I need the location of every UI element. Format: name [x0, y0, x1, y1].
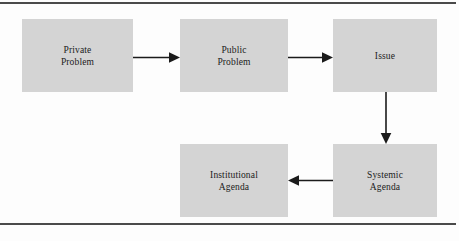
horizontal-rule-bottom: [0, 223, 456, 225]
node-label-public-problem: Public Problem: [217, 44, 250, 68]
diagram-canvas: Private Problem Public Problem Issue Ins…: [0, 0, 459, 241]
node-institutional-agenda[interactable]: Institutional Agenda: [180, 144, 288, 217]
arrow-private-problem-to-public-problem: [133, 50, 180, 65]
node-issue[interactable]: Issue: [333, 19, 437, 92]
node-private-problem[interactable]: Private Problem: [22, 19, 133, 92]
arrow-public-problem-to-issue: [288, 50, 333, 65]
node-label-private-problem: Private Problem: [61, 44, 94, 68]
node-public-problem[interactable]: Public Problem: [180, 19, 288, 92]
node-label-institutional-agenda: Institutional Agenda: [210, 169, 258, 193]
node-label-systemic-agenda: Systemic Agenda: [367, 169, 403, 193]
horizontal-rule-top: [0, 2, 456, 4]
node-systemic-agenda[interactable]: Systemic Agenda: [333, 144, 437, 217]
arrow-issue-to-systemic-agenda: [378, 92, 394, 144]
arrow-systemic-agenda-to-institutional-agenda: [288, 173, 333, 188]
node-label-issue: Issue: [375, 50, 395, 62]
